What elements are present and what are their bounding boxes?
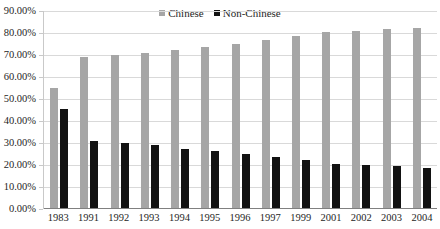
x-axis-tick-label: 1993 [134, 211, 164, 227]
bar-non-chinese-1993[interactable] [151, 145, 159, 209]
bar-group [377, 11, 407, 209]
plot-area [43, 11, 437, 209]
bar-group [316, 11, 346, 209]
bar-non-chinese-1983[interactable] [60, 109, 68, 209]
y-axis-tick-label: 80.00% [4, 28, 36, 39]
bar-chinese-2004[interactable] [413, 28, 421, 210]
bars-layer [44, 11, 437, 209]
axis-baseline [44, 208, 437, 209]
bar-group [104, 11, 134, 209]
bar-chinese-1997[interactable] [262, 40, 270, 209]
x-axis-tick-label: 1983 [43, 211, 73, 227]
y-axis-tick-label: 20.00% [4, 160, 36, 171]
y-axis: 90.00%80.00%70.00%60.00%50.00%40.00%30.0… [0, 0, 43, 229]
y-axis-tick-label: 40.00% [4, 116, 36, 127]
bar-chinese-2001[interactable] [322, 32, 330, 209]
y-axis-tick-label: 70.00% [4, 50, 36, 61]
x-axis: 1983199119921993199419951996199719992001… [43, 211, 437, 227]
bar-non-chinese-2003[interactable] [393, 166, 401, 209]
bar-chart: Chinese Non-Chinese 90.00%80.00%70.00%60… [0, 0, 440, 229]
x-axis-tick-label: 2004 [407, 211, 437, 227]
bar-group [225, 11, 255, 209]
bar-chinese-1983[interactable] [50, 88, 58, 209]
y-axis-tick-label: 50.00% [4, 94, 36, 105]
bar-chinese-2002[interactable] [352, 31, 360, 209]
bar-group [44, 11, 74, 209]
y-axis-tick-mark [39, 209, 43, 210]
bar-non-chinese-2001[interactable] [332, 164, 340, 209]
x-axis-tick-label: 1995 [195, 211, 225, 227]
bar-group [286, 11, 316, 209]
bar-non-chinese-1994[interactable] [181, 149, 189, 210]
x-axis-tick-label: 1996 [225, 211, 255, 227]
bar-chinese-1994[interactable] [171, 50, 179, 210]
bar-chinese-1992[interactable] [111, 55, 119, 209]
bar-chinese-2003[interactable] [383, 29, 391, 209]
bar-group [407, 11, 437, 209]
y-axis-tick-label: 60.00% [4, 72, 36, 83]
bar-chinese-1993[interactable] [141, 53, 149, 209]
bar-group [165, 11, 195, 209]
bar-chinese-1995[interactable] [201, 47, 209, 209]
x-axis-tick-label: 1997 [255, 211, 285, 227]
bar-group [74, 11, 104, 209]
bar-group [256, 11, 286, 209]
x-axis-tick-label: 1991 [73, 211, 103, 227]
bar-non-chinese-1999[interactable] [302, 160, 310, 210]
x-axis-tick-label: 2003 [376, 211, 406, 227]
bar-non-chinese-2004[interactable] [423, 168, 431, 209]
bar-non-chinese-1996[interactable] [242, 154, 250, 209]
x-axis-tick-label: 2001 [316, 211, 346, 227]
bar-group [135, 11, 165, 209]
y-axis-tick-label: 0.00% [9, 204, 36, 215]
y-axis-tick-label: 10.00% [4, 182, 36, 193]
x-axis-tick-label: 1999 [286, 211, 316, 227]
bar-non-chinese-1997[interactable] [272, 157, 280, 209]
y-axis-tick-label: 30.00% [4, 138, 36, 149]
bar-non-chinese-1992[interactable] [121, 143, 129, 209]
bar-non-chinese-1991[interactable] [90, 141, 98, 209]
bar-chinese-1991[interactable] [80, 57, 88, 209]
bar-non-chinese-1995[interactable] [211, 151, 219, 209]
bar-group [195, 11, 225, 209]
bar-chinese-1999[interactable] [292, 36, 300, 209]
bar-chinese-1996[interactable] [232, 44, 240, 209]
x-axis-tick-label: 1992 [104, 211, 134, 227]
x-axis-tick-label: 2002 [346, 211, 376, 227]
bar-non-chinese-2002[interactable] [362, 165, 370, 209]
x-axis-tick-label: 1994 [164, 211, 194, 227]
y-axis-tick-label: 90.00% [4, 6, 36, 17]
bar-group [346, 11, 376, 209]
